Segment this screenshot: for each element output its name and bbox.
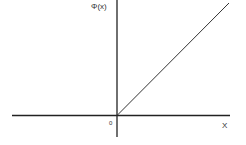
x-axis-label: X (222, 122, 227, 130)
origin-label: 0 (109, 120, 112, 126)
function-line (117, 3, 229, 116)
y-axis-label: Φ(x) (91, 3, 107, 11)
chart-canvas (0, 0, 246, 145)
